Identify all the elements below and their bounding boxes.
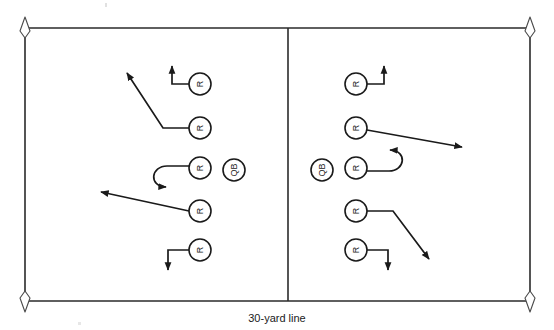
player-right-r5-label: R xyxy=(351,246,361,253)
player-left-qb-label: QB xyxy=(229,163,239,176)
route-left-r5-out-down xyxy=(168,250,189,270)
route-left-r2-deep-out xyxy=(127,73,189,128)
pylon-bottom-left xyxy=(20,291,30,312)
player-right-r1-label: R xyxy=(351,80,361,87)
route-right-r4-corner xyxy=(367,211,429,259)
player-right-r2-label: R xyxy=(351,124,361,131)
player-right-r2[interactable]: R xyxy=(345,117,367,139)
player-left-r1[interactable]: R xyxy=(189,73,211,95)
route-left-r1-go xyxy=(172,66,189,84)
route-right-r5-out-down xyxy=(367,250,388,270)
football-play-diagram: R R R QB R R R R xyxy=(0,0,554,330)
player-left-r1-label: R xyxy=(195,80,205,87)
player-left-qb[interactable]: QB xyxy=(223,159,245,181)
field-caption: 30-yard line xyxy=(0,312,554,324)
field-boundary xyxy=(25,28,530,301)
player-left-r2[interactable]: R xyxy=(189,117,211,139)
route-left-r3-hook xyxy=(154,166,189,187)
play-diagram-canvas: R R R QB R R R R xyxy=(0,0,554,330)
scan-speck-top xyxy=(105,3,107,7)
player-right-r3[interactable]: R xyxy=(345,157,367,179)
player-right-r1[interactable]: R xyxy=(345,73,367,95)
player-right-r3-label: R xyxy=(351,164,361,171)
player-right-r4[interactable]: R xyxy=(345,200,367,222)
route-right-r3-hook xyxy=(367,150,402,171)
player-left-r3-label: R xyxy=(195,164,205,171)
player-left-r2-label: R xyxy=(195,124,205,131)
pylon-top-left xyxy=(20,17,30,38)
route-right-r1-go xyxy=(367,66,384,84)
player-right-r5[interactable]: R xyxy=(345,239,367,261)
route-left-r4-drag xyxy=(101,192,189,211)
player-right-r4-label: R xyxy=(351,207,361,214)
player-left-r4[interactable]: R xyxy=(189,200,211,222)
pylon-bottom-right xyxy=(525,291,535,312)
player-left-r5[interactable]: R xyxy=(189,239,211,261)
player-right-qb[interactable]: QB xyxy=(311,159,333,181)
route-right-r2-deep-out xyxy=(367,130,462,147)
player-left-r5-label: R xyxy=(195,246,205,253)
player-right-qb-label: QB xyxy=(317,163,327,176)
scan-speck-bottom xyxy=(78,322,81,325)
pylon-top-right xyxy=(525,17,535,38)
player-left-r4-label: R xyxy=(195,207,205,214)
player-left-r3[interactable]: R xyxy=(189,157,211,179)
